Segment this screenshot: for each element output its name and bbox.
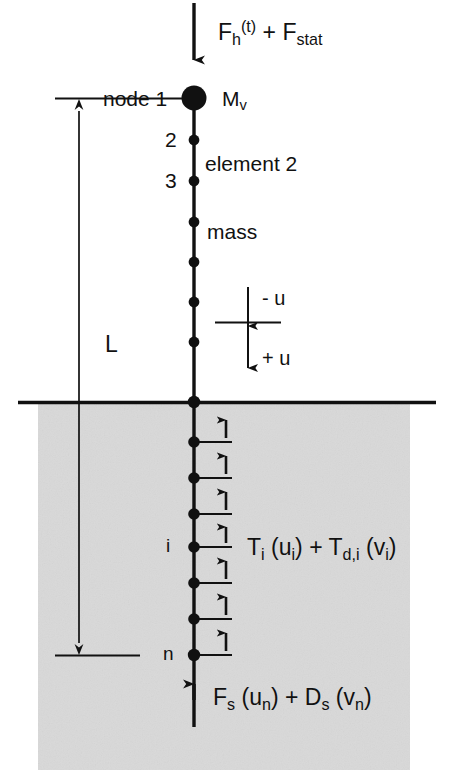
node-n-label: n: [163, 644, 174, 663]
element-2-label: element 2: [205, 153, 297, 174]
negative-displacement-label: - u: [262, 288, 285, 308]
head-mass-label: Mv: [222, 88, 247, 113]
mass-label: mass: [207, 221, 257, 242]
head-mass-node: [182, 86, 207, 111]
tip-resistance-label: Fs (un) + Ds (vn): [213, 686, 372, 712]
shaft-resistance-label: Ti (ui) + Td,i (vi): [247, 536, 396, 562]
pile-model-diagram: Fh(t) + Fstat Mv node 1 2 3 element 2 ma…: [0, 0, 451, 782]
head-load-label: Fh(t) + Fstat: [218, 18, 322, 47]
node-1-label: node 1: [103, 88, 167, 109]
node-3-label: 3: [165, 170, 177, 191]
node-2-label: 2: [165, 129, 177, 150]
diagram-vector-layer: [0, 0, 451, 782]
node-i-label: i: [166, 536, 170, 555]
soil-region: [38, 404, 410, 770]
pile-length-label: L: [105, 333, 118, 356]
positive-displacement-label: + u: [262, 348, 290, 368]
